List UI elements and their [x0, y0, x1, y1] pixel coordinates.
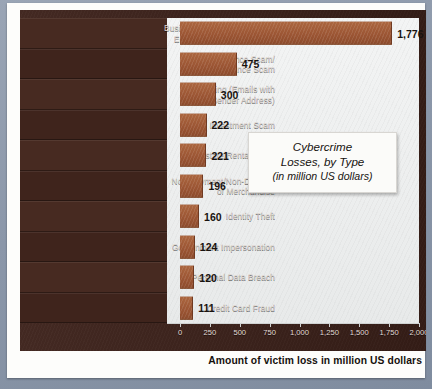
bar-row: Government Impersonation124	[20, 232, 426, 263]
bar-value-label: 120	[199, 271, 217, 283]
chart-card: Business Email Compromise/Email Access C…	[7, 3, 425, 378]
bar-row: Personal Data Breach120	[20, 262, 426, 293]
bar-container: 111	[180, 293, 215, 324]
bar-row: Spoofing (Emails withForged Sender Addre…	[20, 79, 426, 110]
x-axis-tick	[389, 323, 390, 327]
bar	[180, 235, 195, 258]
bar	[180, 266, 194, 289]
bar-value-label: 160	[204, 210, 222, 222]
chart-title-line-2: Losses, by Type	[255, 155, 390, 170]
bar-value-label: 475	[242, 58, 260, 70]
x-axis-tick	[359, 323, 360, 327]
bar-container: 196	[180, 171, 226, 202]
x-axis-tick	[270, 323, 271, 327]
bar-container: 120	[180, 262, 217, 293]
bar-container: 124	[180, 232, 217, 263]
bar-container: 1,776	[180, 18, 424, 49]
bar	[180, 144, 206, 167]
x-axis-tick	[210, 323, 211, 327]
x-axis-tick-label: 500	[233, 328, 246, 337]
bar	[180, 113, 207, 136]
x-axis-tick	[300, 323, 301, 327]
bar-value-label: 300	[221, 88, 239, 100]
bar-row: Credit Card Fraud111	[20, 293, 426, 324]
bar	[180, 83, 216, 106]
chart-panel: Business Email Compromise/Email Access C…	[20, 10, 426, 351]
bar	[180, 52, 237, 75]
chart-page: Business Email Compromise/Email Access C…	[0, 0, 432, 389]
x-axis-tick-label: 1,000	[290, 328, 309, 337]
x-axis-tick-label: 750	[263, 328, 276, 337]
x-axis-tick	[329, 323, 330, 327]
chart-title-box: Cybercrime Losses, by Type (in million U…	[248, 132, 397, 193]
bar	[180, 205, 199, 228]
x-axis-tick-label: 0	[178, 328, 182, 337]
x-axis-caption: Amount of victim loss in million US doll…	[20, 355, 426, 366]
bar-row: Business Email Compromise/Email Access C…	[20, 18, 426, 49]
x-axis-tick	[419, 323, 420, 327]
x-axis: 02505007501,0001,2501,5001,7502,000	[167, 323, 419, 347]
bar-value-label: 124	[200, 241, 218, 253]
bar-row: Confidence Scam/Romance Scam475	[20, 49, 426, 80]
x-axis-tick-label: 250	[204, 328, 217, 337]
chart-subtitle: (in million US dollars)	[255, 169, 390, 184]
bar-value-label: 196	[208, 180, 226, 192]
x-axis-tick	[180, 323, 181, 327]
x-axis-tick-label: 2,000	[409, 328, 426, 337]
bar-container: 300	[180, 79, 238, 110]
bar	[180, 22, 392, 45]
bar-value-label: 111	[198, 302, 214, 314]
x-axis-tick-label: 1,250	[320, 328, 339, 337]
x-axis-tick-label: 1,500	[350, 328, 369, 337]
bar-value-label: 221	[211, 149, 229, 161]
bar-container: 221	[180, 140, 229, 171]
bar	[180, 174, 203, 197]
bar-container: 475	[180, 49, 259, 80]
x-axis-tick-label: 1,750	[380, 328, 399, 337]
chart-title-line-1: Cybercrime	[255, 140, 390, 155]
x-axis-line	[167, 323, 419, 324]
bar-value-label: 222	[212, 119, 230, 131]
bar-row: Identity Theft160	[20, 201, 426, 232]
bar	[180, 296, 193, 319]
bar-value-label: 1,776	[397, 27, 423, 39]
bar-container: 160	[180, 201, 222, 232]
x-axis-tick	[240, 323, 241, 327]
bar-container: 222	[180, 110, 229, 141]
